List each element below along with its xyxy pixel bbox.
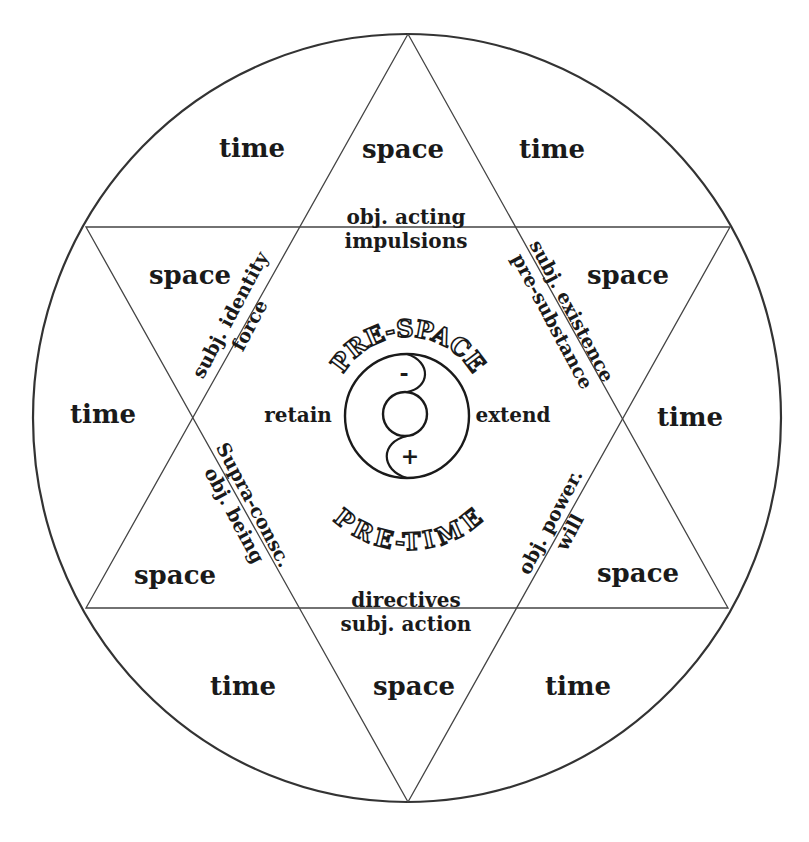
minus-sign: - [399, 360, 408, 386]
label-directives: directives [351, 588, 460, 612]
center-inner-circle [383, 392, 427, 436]
arc-text-pre-time: PRE-TIME [328, 502, 487, 556]
region-right: time [657, 402, 723, 432]
central-symbol: - + PRE-SPACE PRE-TIME [324, 314, 491, 557]
region-top-right: time [519, 134, 585, 164]
hexagram-diagram: time space time space space time time sp… [0, 0, 809, 842]
label-obj-acting: obj. acting [347, 205, 466, 229]
region-bottom-right: time [545, 671, 611, 701]
region-upper-right: space [587, 260, 669, 290]
label-impulsions: impulsions [345, 229, 468, 253]
region-lower-left: space [134, 560, 216, 590]
label-subj-action: subj. action [341, 612, 472, 636]
label-retain: retain [264, 403, 332, 427]
region-lower-right: space [597, 558, 679, 588]
region-upper-left: space [149, 260, 231, 290]
region-top-left: time [219, 133, 285, 163]
region-bottom: space [373, 671, 455, 701]
region-bottom-left: time [210, 671, 276, 701]
label-extend: extend [475, 403, 550, 427]
plus-sign: + [401, 443, 419, 469]
region-top: space [362, 134, 444, 164]
region-left: time [70, 399, 136, 429]
downward-triangle [86, 227, 730, 802]
